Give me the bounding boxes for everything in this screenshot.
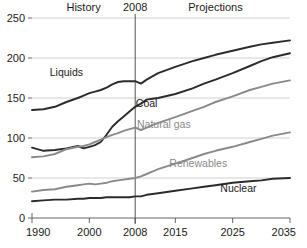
ytick-label-200: 200 xyxy=(7,52,25,64)
series-label-liquids: Liquids xyxy=(50,66,83,78)
energy-consumption-chart: 050100150200250199020002008201520252035H… xyxy=(0,0,307,248)
series-label-nuclear: Nuclear xyxy=(220,182,257,194)
series-label-natural-gas: Natural gas xyxy=(137,118,191,130)
xtick-label-2000: 2000 xyxy=(77,226,101,238)
series-label-coal: Coal xyxy=(136,97,158,109)
year-divider-label: 2008 xyxy=(123,1,147,13)
chart-canvas: 050100150200250199020002008201520252035H… xyxy=(0,0,307,248)
xtick-label-2008: 2008 xyxy=(123,226,147,238)
xtick-label-2015: 2015 xyxy=(163,226,187,238)
ytick-label-50: 50 xyxy=(13,172,25,184)
xtick-label-1990: 1990 xyxy=(26,226,50,238)
ytick-label-250: 250 xyxy=(7,12,25,24)
series-label-renewables: Renewables xyxy=(169,157,227,169)
xtick-label-2035: 2035 xyxy=(272,226,296,238)
xtick-label-2025: 2025 xyxy=(220,226,244,238)
ytick-label-100: 100 xyxy=(7,132,25,144)
history-label: History xyxy=(66,1,101,13)
ytick-label-150: 150 xyxy=(7,92,25,104)
ytick-label-0: 0 xyxy=(19,212,25,224)
projections-label: Projections xyxy=(188,1,243,13)
